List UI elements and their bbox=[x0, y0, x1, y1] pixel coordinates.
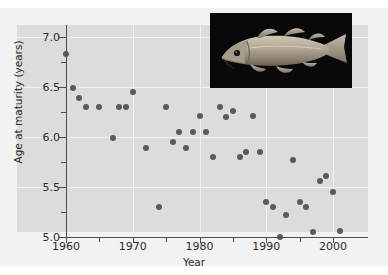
data-point bbox=[70, 85, 76, 91]
data-point bbox=[123, 104, 129, 110]
data-point bbox=[156, 204, 162, 210]
data-point bbox=[230, 108, 236, 114]
y-tick-label: 7.0 bbox=[26, 32, 60, 43]
fish-icon bbox=[210, 13, 352, 88]
data-point bbox=[270, 204, 276, 210]
cod-fish-photo-inset bbox=[210, 13, 352, 88]
x-tick-minor bbox=[99, 238, 100, 242]
x-tick-label: 1960 bbox=[46, 241, 86, 253]
y-tick-minor bbox=[61, 112, 66, 113]
data-point bbox=[143, 145, 149, 151]
y-tick-label: 6.5 bbox=[26, 82, 60, 93]
y-axis-line bbox=[66, 25, 67, 237]
x-tick-label: 1970 bbox=[113, 241, 153, 253]
data-point bbox=[170, 139, 176, 145]
data-point bbox=[190, 129, 196, 135]
data-point bbox=[76, 95, 82, 101]
data-point bbox=[303, 204, 309, 210]
x-tick-label: 2000 bbox=[313, 241, 353, 253]
data-point bbox=[163, 104, 169, 110]
data-point bbox=[323, 173, 329, 179]
x-axis-line bbox=[60, 237, 368, 238]
data-point bbox=[243, 149, 249, 155]
y-tick-label: 6.0 bbox=[26, 132, 60, 143]
data-point bbox=[110, 135, 116, 141]
gridline-vertical bbox=[200, 25, 201, 232]
x-tick-minor bbox=[233, 238, 234, 242]
y-tick-major bbox=[59, 87, 66, 88]
y-axis-title: Age at maturity (years) bbox=[12, 22, 24, 182]
data-point bbox=[290, 157, 296, 163]
gridline-horizontal bbox=[17, 187, 368, 188]
x-tick-label: 1980 bbox=[180, 241, 220, 253]
data-point bbox=[317, 178, 323, 184]
x-tick-label: 1990 bbox=[246, 241, 286, 253]
data-point bbox=[83, 104, 89, 110]
data-point bbox=[297, 199, 303, 205]
data-point bbox=[310, 229, 316, 235]
data-point bbox=[210, 154, 216, 160]
data-point bbox=[263, 199, 269, 205]
y-tick-minor bbox=[61, 212, 66, 213]
x-axis-title: Year bbox=[0, 256, 388, 268]
data-point bbox=[197, 113, 203, 119]
y-tick-minor bbox=[61, 162, 66, 163]
data-point bbox=[176, 129, 182, 135]
data-point bbox=[130, 89, 136, 95]
data-point bbox=[217, 104, 223, 110]
scatter-plot-figure: 5.05.56.06.57.0 19601970198019902000 Age… bbox=[0, 0, 388, 275]
data-point bbox=[250, 113, 256, 119]
y-tick-major bbox=[59, 187, 66, 188]
data-point bbox=[330, 189, 336, 195]
x-tick-minor bbox=[166, 238, 167, 242]
x-tick-minor bbox=[300, 238, 301, 242]
data-point bbox=[116, 104, 122, 110]
gridline-vertical bbox=[133, 25, 134, 232]
data-point bbox=[183, 145, 189, 151]
y-tick-label: 5.5 bbox=[26, 182, 60, 193]
data-point bbox=[203, 129, 209, 135]
data-point bbox=[337, 228, 343, 234]
y-tick-major bbox=[59, 37, 66, 38]
y-tick-major bbox=[59, 237, 66, 238]
data-point bbox=[223, 114, 229, 120]
gridline-horizontal bbox=[17, 137, 368, 138]
data-point bbox=[96, 104, 102, 110]
data-point bbox=[283, 212, 289, 218]
y-tick-minor bbox=[61, 62, 66, 63]
data-point bbox=[257, 149, 263, 155]
y-tick-major bbox=[59, 137, 66, 138]
data-point bbox=[237, 154, 243, 160]
